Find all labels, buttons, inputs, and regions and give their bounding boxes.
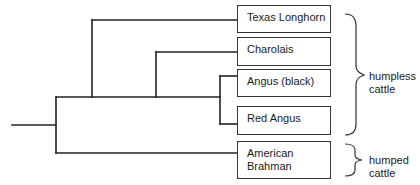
group-label-humped: humped cattle xyxy=(369,154,409,179)
taxon-box-charolais: Charolais xyxy=(237,37,331,66)
group-label-line2: cattle xyxy=(369,83,416,96)
taxon-label-line1: American xyxy=(247,147,330,160)
group-label-line1: humped xyxy=(369,154,409,167)
taxon-box-red-angus: Red Angus xyxy=(237,106,331,135)
humpless-bracket xyxy=(345,14,364,135)
group-label-line2: cattle xyxy=(369,167,409,180)
group-label-humpless: humpless cattle xyxy=(369,70,416,95)
taxon-box-texas-longhorn: Texas Longhorn xyxy=(237,5,331,33)
tree-branches xyxy=(0,0,420,185)
taxon-label: Charolais xyxy=(247,43,293,55)
taxon-box-angus-black: Angus (black) xyxy=(237,69,331,97)
taxon-label: Red Angus xyxy=(247,112,301,124)
taxon-label: Angus (black) xyxy=(247,75,314,87)
humped-bracket xyxy=(345,144,362,176)
taxon-label-line2: Brahman xyxy=(247,160,330,173)
group-label-line1: humpless xyxy=(369,70,416,83)
taxon-label: Texas Longhorn xyxy=(247,11,325,23)
taxon-box-american-brahman: American Brahman xyxy=(237,141,331,179)
